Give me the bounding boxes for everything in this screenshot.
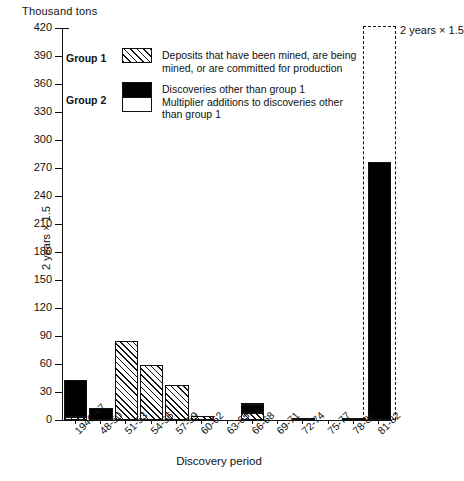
y-tick-label-390: 390: [34, 49, 52, 62]
y-tick-label-90: 90: [40, 329, 52, 342]
legend-group2-line2: Multiplier additions to discoveries othe…: [162, 96, 356, 109]
legend-group1-swatch-col: [122, 48, 156, 63]
bar-segment-group2-discoveries-1946-47: [64, 380, 87, 417]
bar-segment-group2-multiplier-66-68: [241, 403, 264, 405]
y-tick-label-360: 360: [34, 77, 52, 90]
y-tick-150: 150: [55, 280, 62, 281]
legend-group2-line3: than group 1: [162, 108, 356, 121]
y-tick-label-30: 30: [40, 385, 52, 398]
legend-row-group2: Group 2 Discoveries other than group 1 M…: [66, 82, 356, 121]
y-tick-label-330: 330: [34, 105, 52, 118]
legend-group2-label: Group 2: [66, 82, 122, 107]
hatched-swatch-icon: [122, 48, 152, 63]
right-annotation-label: 2 years × 1.5: [400, 24, 464, 36]
y-axis-title: Thousand tons: [22, 5, 97, 17]
legend-group1-line2: mined, or are committed for production: [162, 62, 356, 75]
legend-group1-label: Group 1: [66, 48, 122, 65]
y-tick-0: 0: [55, 420, 62, 421]
left-annotation-label: 2 years × 1.5: [40, 206, 52, 270]
bar-segment-group1-51-53: [115, 341, 138, 420]
legend-group1-text: Deposits that have been mined, are being…: [156, 48, 356, 74]
y-tick-270: 270: [55, 168, 62, 169]
y-tick-label-150: 150: [34, 273, 52, 286]
black-swatch-icon: [122, 82, 152, 97]
white-swatch-icon: [122, 97, 152, 112]
bar-81-82: [368, 162, 391, 420]
y-tick-240: 240: [55, 196, 62, 197]
bar-51-53: [115, 341, 138, 420]
legend-group2-text: Discoveries other than group 1 Multiplie…: [156, 82, 356, 121]
y-tick-420: 420: [55, 28, 62, 29]
bar-1946-47: [64, 380, 87, 420]
x-axis-title: Discovery period: [0, 455, 438, 467]
legend-row-group1: Group 1 Deposits that have been mined, a…: [66, 48, 356, 74]
y-tick-360: 360: [55, 84, 62, 85]
y-tick-label-120: 120: [34, 301, 52, 314]
y-tick-label-0: 0: [46, 413, 52, 426]
legend-group2-line1: Discoveries other than group 1: [162, 83, 356, 96]
y-tick-label-270: 270: [34, 161, 52, 174]
y-tick-30: 30: [55, 392, 62, 393]
bar-segment-group2-discoveries-81-82: [368, 162, 391, 420]
y-tick-390: 390: [55, 56, 62, 57]
y-tick-label-300: 300: [34, 133, 52, 146]
chart-legend: Group 1 Deposits that have been mined, a…: [66, 48, 356, 121]
y-tick-90: 90: [55, 336, 62, 337]
y-tick-label-420: 420: [34, 21, 52, 34]
y-tick-120: 120: [55, 308, 62, 309]
y-tick-300: 300: [55, 140, 62, 141]
y-tick-60: 60: [55, 364, 62, 365]
y-tick-label-60: 60: [40, 357, 52, 370]
y-tick-180: 180: [55, 252, 62, 253]
legend-group2-swatch-col: [122, 82, 156, 112]
y-tick-label-240: 240: [34, 189, 52, 202]
y-tick-330: 330: [55, 112, 62, 113]
legend-group1-line1: Deposits that have been mined, are being: [162, 49, 356, 62]
y-tick-210: 210: [55, 224, 62, 225]
